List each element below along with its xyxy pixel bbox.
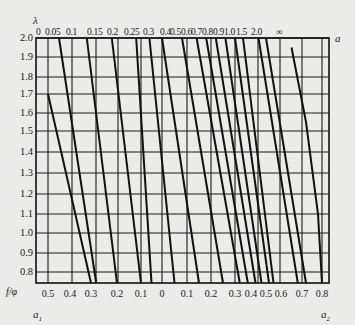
y-tick-label: 1.0 [3, 228, 33, 238]
bottom-tick-label: 0 [160, 289, 165, 299]
top-lambda-tick-label: 0.5 [170, 27, 181, 37]
y-tick-label: 1.5 [3, 126, 33, 136]
y-tick-label: 1.6 [3, 108, 33, 118]
y-tick-label: 1.2 [3, 189, 33, 199]
a2-axis-label: a2 [321, 309, 330, 324]
top-lambda-tick-label: 0.15 [87, 27, 102, 37]
bottom-tick-label: 0.8 [316, 289, 329, 299]
y-tick-label: 1.7 [3, 89, 33, 99]
lambda-curves [48, 38, 322, 283]
top-lambda-tick-label: 0.9 [213, 27, 224, 37]
y-tick-label: 1.8 [3, 72, 33, 82]
curve-λ=2.0 [266, 38, 306, 283]
top-lambda-tick-label: 0.3 [143, 27, 154, 37]
bottom-tick-label: 0.7 [296, 289, 309, 299]
top-lambda-tick-label: 1.0 [224, 27, 235, 37]
f-phi-axis-label: f/φ [6, 287, 17, 297]
top-lambda-tick-label: 0.8 [202, 27, 213, 37]
bottom-tick-label: 0.2 [111, 289, 124, 299]
bottom-tick-label: 0.5 [42, 289, 55, 299]
y-tick-label: 2.0 [3, 33, 33, 43]
bottom-tick-label: 0.3 [85, 289, 98, 299]
curve-λ=0.15 [112, 38, 141, 283]
bottom-tick-label: 0.6 [275, 289, 288, 299]
bottom-tick-label: 0.4 [64, 289, 77, 299]
bottom-tick-label: 0.4 [245, 289, 258, 299]
y-tick-label: 1.3 [3, 168, 33, 178]
bottom-tick-label: 0.3 [229, 289, 242, 299]
top-lambda-tick-label: 2.0 [251, 27, 262, 37]
top-lambda-tick-label: 0.2 [107, 27, 118, 37]
y-tick-label: 0.9 [3, 248, 33, 258]
bottom-tick-label: 0.5 [260, 289, 273, 299]
curve-λ=0.7 [216, 38, 256, 283]
a1-axis-label: a1 [33, 309, 42, 324]
lambda-axis-label: λ [33, 15, 38, 25]
top-lambda-tick-label: ∞ [276, 27, 282, 37]
curve-λ=0 [48, 94, 91, 283]
curve-λ=0.6 [206, 38, 248, 283]
top-lambda-tick-label: 1.5 [236, 27, 247, 37]
curve-λ=0.2 [136, 38, 151, 283]
top-lambda-tick-label: 0.05 [45, 27, 60, 37]
a-axis-label: a [335, 33, 341, 43]
bottom-tick-label: 0.1 [181, 289, 194, 299]
nomogram-chart [0, 0, 355, 325]
y-tick-label: 1.9 [3, 52, 33, 62]
curve-λ=0.3 [162, 38, 199, 283]
top-lambda-tick-label: 0.7 [191, 27, 202, 37]
curve-λ=0.8 [225, 38, 261, 283]
top-lambda-tick-label: 0.25 [124, 27, 139, 37]
curve-λ=∞ [292, 48, 323, 284]
bottom-tick-label: 0.1 [135, 289, 148, 299]
bottom-tick-label: 0.2 [205, 289, 218, 299]
y-tick-label: 1.1 [3, 209, 33, 219]
y-tick-label: 0.8 [3, 267, 33, 277]
y-tick-label: 1.4 [3, 147, 33, 157]
top-lambda-tick-label: 0 [36, 27, 40, 37]
top-lambda-tick-label: 0.1 [66, 27, 77, 37]
